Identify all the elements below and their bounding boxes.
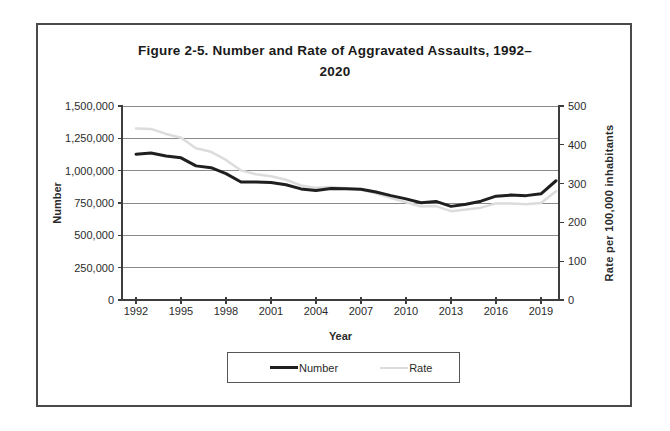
y-right-tick-label: 200 <box>568 216 586 228</box>
y-left-tick-label: 750,000 <box>74 197 114 209</box>
x-tick-label: 2007 <box>349 305 373 317</box>
x-tick-label: 1992 <box>124 305 148 317</box>
x-tick-label: 2010 <box>394 305 418 317</box>
y-left-tick-label: 1,000,000 <box>65 165 114 177</box>
rate-line-series <box>136 129 556 212</box>
y-left-tick-label: 1,250,000 <box>65 132 114 144</box>
x-tick-label: 2001 <box>259 305 283 317</box>
legend-label-number: Number <box>299 362 338 374</box>
rate-line-swatch <box>380 367 408 369</box>
number-line-series <box>136 153 556 206</box>
y-right-tick-label: 100 <box>568 255 586 267</box>
x-tick-label: 1995 <box>169 305 193 317</box>
y-right-tick-label: 500 <box>568 100 586 112</box>
number-line-swatch <box>270 366 298 369</box>
x-tick-label: 2013 <box>439 305 463 317</box>
y-left-tick-label: 1,500,000 <box>65 100 114 112</box>
y-left-tick-label: 0 <box>108 294 114 306</box>
legend-item-rate: Rate <box>380 362 432 374</box>
x-tick-label: 2019 <box>529 305 553 317</box>
y-right-tick-label: 400 <box>568 139 586 151</box>
y-right-tick-label: 0 <box>568 294 574 306</box>
legend-label-rate: Rate <box>409 362 432 374</box>
x-tick-label: 2016 <box>484 305 508 317</box>
y-axis-title-right: Rate per 100,000 inhabitants <box>603 125 615 282</box>
y-left-tick-label: 500,000 <box>74 229 114 241</box>
x-axis-title: Year <box>122 330 559 342</box>
x-tick-label: 1998 <box>214 305 238 317</box>
legend-item-number: Number <box>270 362 338 374</box>
legend: Number Rate <box>227 352 460 383</box>
y-right-tick-label: 300 <box>568 178 586 190</box>
y-axis-title-left: Number <box>51 182 63 224</box>
x-tick-label: 2004 <box>304 305 328 317</box>
y-left-tick-label: 250,000 <box>74 262 114 274</box>
